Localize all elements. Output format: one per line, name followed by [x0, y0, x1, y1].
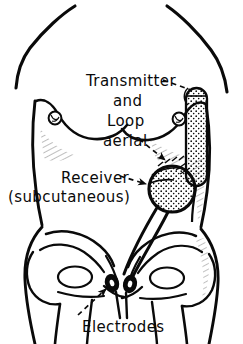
lead-wires: [124, 206, 168, 276]
nipple-left: [49, 112, 62, 125]
electrodes-leader: [78, 289, 106, 315]
breast-left-shading: [40, 128, 74, 161]
nipple-right: [173, 113, 186, 126]
label-transmitter: Transmitter: [86, 72, 176, 90]
label-and: and: [113, 92, 142, 110]
label-receiver: Receiver: [61, 169, 129, 187]
electrode-right: [122, 274, 138, 293]
anatomical-diagram: Transmitter and Loop aerial Receiver (su…: [0, 0, 243, 344]
label-loop: Loop: [107, 112, 145, 130]
label-aerial: aerial: [103, 132, 148, 150]
label-electrodes: Electrodes: [82, 318, 165, 336]
label-subcutaneous: (subcutaneous): [8, 188, 130, 206]
